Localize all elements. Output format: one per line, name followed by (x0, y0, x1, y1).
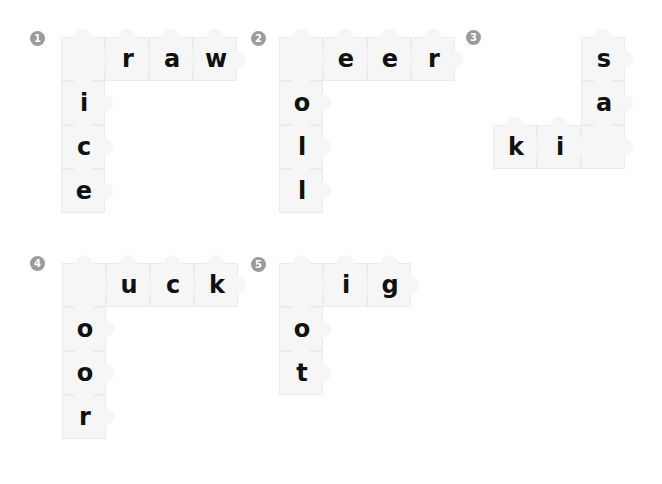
piece-letter: i (324, 264, 368, 308)
piece-letter: r (63, 396, 107, 440)
puzzle-piece[interactable]: s (581, 37, 625, 81)
puzzle-piece[interactable]: o (62, 351, 106, 395)
puzzle-piece[interactable]: r (411, 37, 455, 81)
piece-letter: o (280, 308, 324, 352)
puzzle-piece-blank[interactable] (279, 263, 323, 307)
piece-letter: l (280, 126, 324, 170)
piece-letter (62, 38, 106, 82)
piece-letter: c (151, 264, 195, 308)
piece-letter: l (280, 170, 324, 214)
puzzle-piece-blank[interactable] (279, 37, 323, 81)
piece-letter: t (280, 352, 324, 396)
piece-letter: k (195, 264, 239, 308)
puzzle-piece[interactable]: a (149, 37, 193, 81)
piece-letter: e (368, 38, 412, 82)
puzzle-piece[interactable]: e (61, 169, 105, 213)
piece-letter: r (106, 38, 150, 82)
piece-letter: a (150, 38, 194, 82)
puzzle-piece[interactable]: i (323, 263, 367, 307)
piece-letter: o (63, 352, 107, 396)
puzzle-piece[interactable]: g (367, 263, 411, 307)
piece-letter (63, 264, 107, 308)
piece-letter: g (368, 264, 412, 308)
puzzle-piece[interactable]: c (61, 125, 105, 169)
puzzle-piece[interactable]: a (581, 81, 625, 125)
puzzle-piece[interactable]: e (323, 37, 367, 81)
puzzle-piece[interactable]: c (150, 263, 194, 307)
piece-letter: i (62, 82, 106, 126)
piece-letter: i (538, 126, 582, 170)
puzzle-piece[interactable]: o (62, 307, 106, 351)
puzzle-number-badge: 4 (30, 256, 45, 271)
puzzle-piece[interactable]: r (105, 37, 149, 81)
piece-letter: a (582, 82, 626, 126)
piece-letter: u (107, 264, 151, 308)
puzzle-piece[interactable]: o (279, 307, 323, 351)
piece-letter (280, 264, 324, 308)
piece-letter: e (324, 38, 368, 82)
puzzle-piece[interactable]: l (279, 169, 323, 213)
puzzle-number-badge: 5 (251, 257, 266, 272)
piece-letter: c (62, 126, 106, 170)
puzzle-piece[interactable]: t (279, 351, 323, 395)
puzzle-piece[interactable]: w (193, 37, 237, 81)
puzzle-piece-blank[interactable] (61, 37, 105, 81)
piece-letter: w (194, 38, 238, 82)
piece-letter: s (582, 38, 626, 82)
puzzle-piece[interactable]: i (61, 81, 105, 125)
piece-letter (280, 38, 324, 82)
puzzle-number-badge: 2 (251, 31, 266, 46)
puzzle-piece[interactable]: k (194, 263, 238, 307)
piece-letter: o (63, 308, 107, 352)
puzzle-piece[interactable]: o (279, 81, 323, 125)
puzzle-piece[interactable]: i (537, 125, 581, 169)
puzzle-piece[interactable]: r (62, 395, 106, 439)
piece-letter (582, 126, 626, 170)
piece-letter: o (280, 82, 324, 126)
puzzle-number-badge: 3 (466, 30, 481, 45)
puzzle-piece[interactable]: u (106, 263, 150, 307)
piece-letter: e (62, 170, 106, 214)
piece-letter: r (412, 38, 456, 82)
puzzle-number-badge: 1 (30, 31, 45, 46)
puzzle-piece[interactable]: k (493, 125, 537, 169)
puzzle-piece[interactable]: e (367, 37, 411, 81)
puzzle-piece[interactable]: l (279, 125, 323, 169)
puzzle-piece-blank[interactable] (581, 125, 625, 169)
puzzle-piece-blank[interactable] (62, 263, 106, 307)
piece-letter: k (494, 126, 538, 170)
